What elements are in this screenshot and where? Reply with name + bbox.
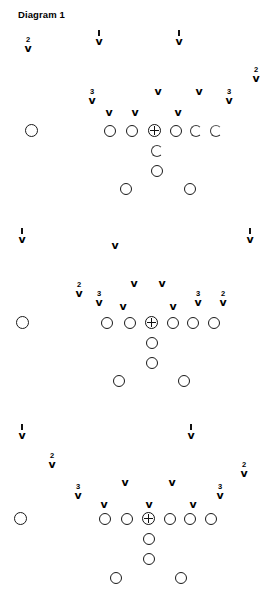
offense-player-split-end-left xyxy=(14,512,27,525)
defense-defender-lb-left: 3v xyxy=(71,483,85,500)
center-ball-icon xyxy=(142,512,155,525)
defender-chevron-icon: v xyxy=(142,500,156,509)
defender-chevron-icon: v xyxy=(15,431,29,440)
offense-player-right-tackle xyxy=(184,513,196,525)
defense-defender-line-2: v xyxy=(142,491,156,509)
offense-player-halfback-left xyxy=(110,572,122,584)
offense-player-fullback xyxy=(143,553,155,565)
defense-defender-mid-right: v xyxy=(165,469,179,487)
defender-chevron-icon: v xyxy=(213,491,227,500)
defense-defender-mid-left: v xyxy=(118,469,132,487)
defender-chevron-icon: v xyxy=(184,431,198,440)
defense-defender-cb-right: 2v xyxy=(237,461,251,478)
diagram-3: vv2vvv2v3vvvv3v xyxy=(0,0,271,606)
offense-player-halfback-right xyxy=(175,572,187,584)
defender-chevron-icon: v xyxy=(186,500,200,509)
defender-chevron-icon: v xyxy=(97,500,111,509)
defender-chevron-icon: v xyxy=(165,478,179,487)
play-diagram-page: Diagram 12vvv2v3vvvvvv3vvvvvv2v3vvv3v2vv… xyxy=(0,0,271,606)
offense-player-left-tackle xyxy=(99,513,111,525)
offense-player-left-guard xyxy=(121,513,133,525)
offense-player-tight-end xyxy=(205,513,217,525)
offense-player-right-guard xyxy=(164,513,176,525)
defender-chevron-icon: v xyxy=(71,491,85,500)
defense-defender-deep-left: v xyxy=(15,424,29,440)
defense-defender-lb-right: 3v xyxy=(213,483,227,500)
defense-defender-line-3: v xyxy=(186,491,200,509)
defender-chevron-icon: v xyxy=(237,469,251,478)
offense-player-quarterback xyxy=(143,533,155,545)
defender-chevron-icon: v xyxy=(118,478,132,487)
defender-chevron-icon: v xyxy=(45,460,59,469)
defense-defender-deep-right: v xyxy=(184,424,198,440)
defense-defender-line-1: v xyxy=(97,491,111,509)
defense-defender-cb-left: 2v xyxy=(45,452,59,469)
